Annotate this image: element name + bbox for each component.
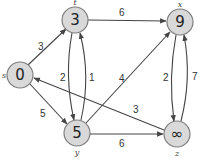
- node-value: 9: [175, 13, 185, 31]
- node-z: ∞ z: [164, 121, 190, 158]
- edge-y-x: [86, 32, 170, 123]
- node-value: 0: [15, 66, 25, 84]
- edge-s-y: [30, 84, 67, 124]
- edge-label-z-x: 7: [192, 71, 198, 82]
- edge-label-z-s: 3: [133, 104, 139, 115]
- edge-s-t: [28, 29, 66, 65]
- node-y: 5 y: [64, 120, 90, 157]
- edge-label-s-y: 5: [40, 108, 46, 119]
- node-name: y: [74, 148, 80, 157]
- node-s: 0 s: [2, 62, 33, 88]
- node-name: x: [178, 0, 183, 9]
- edge-label-t-x: 6: [119, 7, 125, 18]
- node-name: z: [174, 149, 180, 158]
- node-value: ∞: [171, 125, 184, 143]
- node-name: t: [73, 0, 77, 7]
- edge-label-y-x: 4: [119, 73, 125, 84]
- edge-t-x: [88, 20, 166, 21]
- graph-canvas: 3 5 6 2 1 4 6 2 7 3 0 s 3: [0, 0, 207, 163]
- edge-y-t: [80, 33, 86, 120]
- node-t: 3 t: [62, 0, 88, 33]
- node-name: s: [2, 71, 6, 80]
- edge-x-z: [171, 35, 176, 121]
- edge-label-x-z: 2: [163, 72, 169, 83]
- node-value: 5: [72, 124, 82, 142]
- edge-label-y-t: 1: [89, 72, 95, 83]
- edge-label-t-y: 2: [60, 72, 66, 83]
- edge-z-s: [34, 78, 164, 130]
- node-value: 3: [70, 11, 80, 29]
- edge-label-y-z: 6: [119, 138, 125, 149]
- node-x: 9 x: [167, 0, 193, 35]
- edge-z-x: [181, 35, 187, 121]
- edge-t-y: [68, 33, 74, 120]
- edge-label-s-t: 3: [38, 41, 44, 52]
